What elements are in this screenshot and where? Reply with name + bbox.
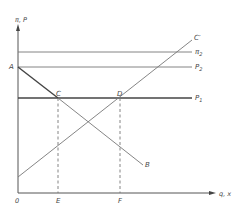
point-f-label: F: [118, 197, 123, 205]
line-c-prime: [18, 40, 192, 177]
p1-label: P1: [195, 94, 202, 103]
line-c-b: [58, 98, 143, 165]
c-prime-label: C′: [194, 34, 201, 42]
y-axis-arrow-icon: [16, 24, 20, 31]
point-b-label: B: [145, 161, 150, 169]
point-e-label: E: [56, 197, 61, 205]
x-axis-arrow-icon: [209, 191, 216, 195]
diagram: π, P q, x 0 A C D B E F C′ π2 P2 P1: [0, 0, 241, 208]
point-d-label: D: [117, 90, 123, 98]
y-axis-label: π, P: [15, 16, 27, 24]
pi2-label: π2: [195, 48, 202, 57]
point-c-label: C: [56, 90, 61, 98]
point-a-label: A: [8, 63, 14, 71]
line-a-c: [18, 67, 58, 98]
origin-label: 0: [15, 197, 19, 205]
x-axis-label: q, x: [219, 190, 231, 198]
p2-label: P2: [195, 63, 202, 72]
